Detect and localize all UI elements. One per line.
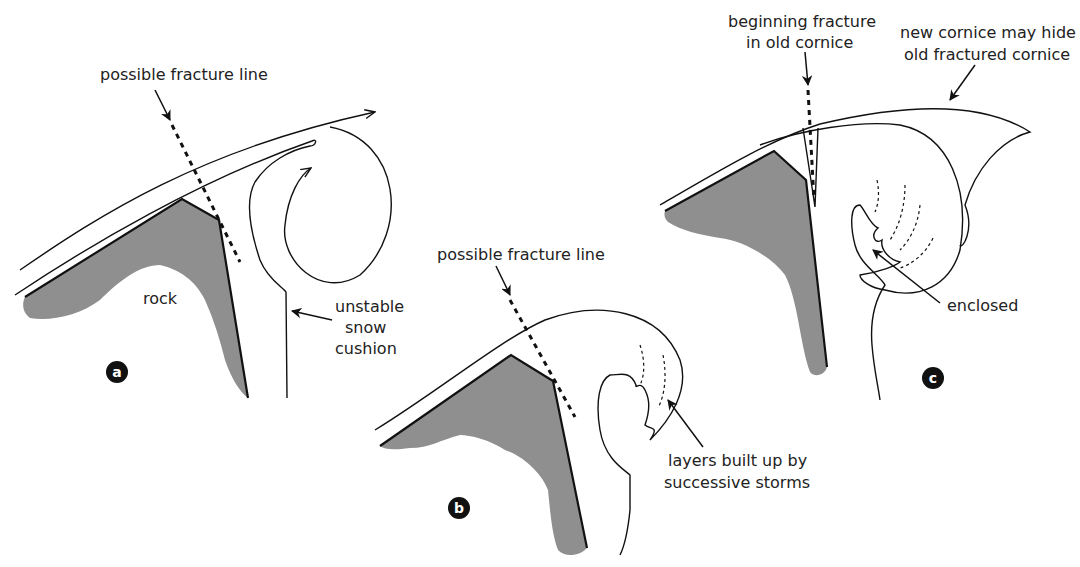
layers-label-2: successive storms [664,473,810,492]
badge-b-label: b [454,500,464,516]
eddy-curl-a [285,127,392,283]
rock-label: rock [143,289,178,308]
new-cornice-label-1: new cornice may hide [900,23,1076,42]
rock-shape-c [664,151,827,375]
storm-layer-4-c [900,238,933,268]
fracture-label-a: possible fracture line [100,65,268,84]
enclosed-pointer-c [873,250,940,303]
cushion-label-3: cushion [335,339,397,358]
snow-surface-lower-a [15,140,316,398]
fracture-pointer-c [805,52,808,85]
new-cornice-pointer-c [950,65,975,100]
fracture-pointer-a [155,90,170,120]
cushion-pointer-a [292,311,332,320]
layers-pointer-b [668,400,703,447]
storm-layer-1-b [640,345,644,385]
fracture-label-c-1: beginning fracture [728,12,876,31]
panel-a: possible fracture line rock unstable sno… [15,65,404,398]
panel-c: beginning fracture in old cornice new co… [660,12,1076,400]
badge-a-label: a [112,364,121,380]
fracture-label-c-2: in old cornice [746,33,853,52]
storm-layer-3-c [900,205,920,250]
enclosed-label: enclosed [947,296,1018,315]
cushion-label-2: snow [345,318,386,337]
rock-shape-b [380,355,587,555]
new-cornice-label-2: old fractured cornice [904,45,1070,64]
cushion-label-1: unstable [335,297,404,316]
cornice-diagram: possible fracture line rock unstable sno… [0,0,1080,567]
storm-layer-1-c [875,180,878,212]
layers-label-1: layers built up by [668,451,807,470]
badge-c-label: c [929,370,937,386]
storm-layer-2-c [890,185,905,240]
panel-b: possible fracture line layers built up b… [375,245,810,555]
fracture-label-b: possible fracture line [437,245,605,264]
fracture-pointer-b [496,266,510,295]
storm-layer-2-b [658,355,665,408]
